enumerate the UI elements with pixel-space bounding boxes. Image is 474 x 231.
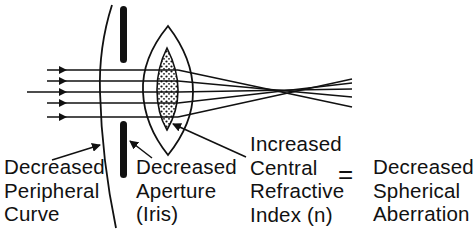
label-line: Aberration bbox=[373, 202, 474, 226]
label-line: Aperture bbox=[136, 179, 237, 203]
label-line: Spherical bbox=[373, 179, 474, 203]
label-line: (Iris) bbox=[136, 202, 237, 226]
label-decreased-peripheral-curve: Decreased Peripheral Curve bbox=[4, 155, 105, 226]
label-line: Index (n) bbox=[250, 203, 344, 227]
label-decreased-spherical-aberration: Decreased Spherical Aberration bbox=[373, 155, 474, 226]
iris-lower-bar bbox=[120, 121, 127, 178]
label-line: Increased bbox=[250, 132, 344, 156]
label-line: Peripheral bbox=[4, 179, 105, 203]
equals-sign: = bbox=[338, 163, 353, 187]
label-decreased-aperture: Decreased Aperture (Iris) bbox=[136, 155, 237, 226]
label-line: Central bbox=[250, 156, 344, 180]
iris-upper-bar bbox=[120, 6, 127, 63]
label-line: Curve bbox=[4, 202, 105, 226]
label-line: Decreased bbox=[4, 155, 105, 179]
label-line: Refractive bbox=[250, 179, 344, 203]
ray-arrowheads bbox=[59, 66, 67, 121]
label-increased-refractive-index: Increased Central Refractive Index (n) bbox=[250, 132, 344, 226]
label-line: Decreased bbox=[136, 155, 237, 179]
light-rays bbox=[27, 70, 352, 117]
label-line: Decreased bbox=[373, 155, 474, 179]
pointer-refractive-arrow bbox=[173, 124, 246, 157]
